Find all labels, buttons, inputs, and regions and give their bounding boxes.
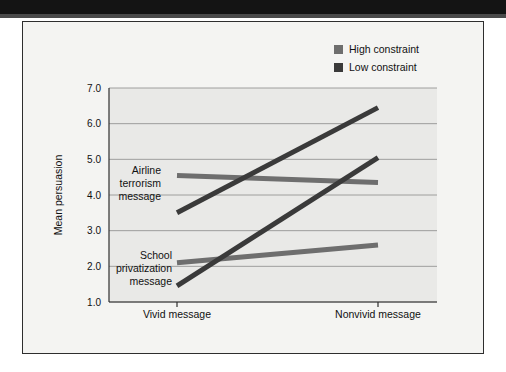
- page-header-band-shadow: [0, 14, 506, 18]
- chart-legend: High constraint Low constraint: [334, 42, 474, 78]
- legend-item-label: Low constraint: [349, 61, 417, 73]
- legend-item-label: High constraint: [349, 43, 419, 55]
- page-header-band: [0, 0, 506, 14]
- square-swatch-icon: [334, 63, 343, 72]
- square-swatch-icon: [334, 45, 343, 54]
- legend-item-high-constraint: High constraint: [334, 42, 474, 56]
- legend-item-low-constraint: Low constraint: [334, 60, 474, 74]
